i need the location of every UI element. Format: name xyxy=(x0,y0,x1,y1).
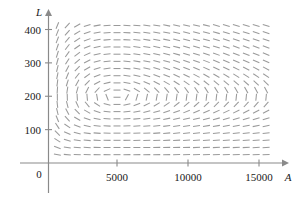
direction-field-segment xyxy=(154,88,159,93)
direction-field-segment xyxy=(193,39,200,41)
direction-field-segment xyxy=(253,60,259,63)
direction-field-segment xyxy=(85,102,89,107)
direction-field-segment xyxy=(263,39,270,41)
direction-field-segment xyxy=(84,118,91,120)
direction-field-segment xyxy=(233,32,240,34)
direction-field-segment xyxy=(143,75,150,77)
direction-field-segment xyxy=(104,104,111,106)
direction-field-segment xyxy=(253,39,260,41)
direction-field-segment xyxy=(216,94,217,101)
direction-field-segment xyxy=(163,133,170,134)
direction-field-segment xyxy=(176,94,177,101)
direction-field-segment xyxy=(193,67,199,70)
direction-field-segment xyxy=(123,54,130,55)
direction-field-segment xyxy=(243,140,250,141)
direction-field-segment xyxy=(104,75,111,76)
direction-field-segment xyxy=(133,25,140,26)
direction-field-segment xyxy=(153,53,160,54)
direction-field-segment xyxy=(87,94,88,101)
direction-field-segment xyxy=(95,88,100,93)
direction-field-segment xyxy=(64,147,71,148)
direction-field-segment xyxy=(56,116,59,122)
direction-field-segment xyxy=(153,68,160,70)
direction-field-segment xyxy=(66,65,69,71)
direction-field-segment xyxy=(94,111,101,113)
direction-field-segment xyxy=(223,110,229,113)
direction-field-segment xyxy=(253,125,260,126)
plot-canvas: 50001000015000100200300400 A L 0 xyxy=(0,0,306,202)
direction-field-segment xyxy=(193,25,200,27)
direction-field-segment xyxy=(94,133,101,134)
direction-field-segment xyxy=(233,74,239,78)
direction-field-segment xyxy=(104,61,111,62)
direction-field-segment xyxy=(193,46,200,48)
direction-field-segment xyxy=(133,54,140,55)
direction-field-segment xyxy=(263,67,269,70)
direction-field-segment xyxy=(133,47,140,48)
direction-field-segment xyxy=(244,81,249,86)
direction-field-segment xyxy=(65,58,69,64)
direction-field-segment xyxy=(264,87,267,93)
direction-field-segment xyxy=(97,94,98,101)
y-tick-label: 200 xyxy=(25,90,42,102)
direction-field-segment xyxy=(223,140,230,141)
direction-field-segment xyxy=(203,110,209,113)
direction-field-segment xyxy=(84,67,90,71)
direction-field-segment xyxy=(94,103,100,107)
direction-field-segment xyxy=(84,24,91,26)
y-tick-label: 100 xyxy=(25,124,42,136)
direction-field-segment xyxy=(84,140,91,141)
direction-field-segment xyxy=(153,61,160,63)
direction-field-segment xyxy=(263,74,269,78)
direction-field-segment xyxy=(166,94,167,101)
direction-field-segment xyxy=(164,102,170,106)
direction-field-segment xyxy=(203,74,209,77)
direction-field-segment xyxy=(56,44,58,51)
direction-field-segment xyxy=(123,75,130,76)
direction-field-segment xyxy=(253,133,260,134)
direction-field-segment xyxy=(124,104,131,105)
direction-field-segment xyxy=(223,67,229,70)
direction-field-segment xyxy=(173,32,180,33)
direction-field-segment xyxy=(254,81,259,86)
direction-field-segment xyxy=(64,154,71,155)
direction-field-segment xyxy=(163,39,170,40)
direction-field-segment xyxy=(94,60,101,62)
direction-field-segment xyxy=(263,60,269,63)
direction-field-segment xyxy=(213,110,219,113)
direction-field-segment xyxy=(54,138,60,142)
direction-field-segment xyxy=(163,74,169,77)
direction-field-segment xyxy=(84,32,91,34)
direction-field-segment xyxy=(123,61,130,62)
direction-field-segment xyxy=(184,102,189,106)
direction-field-segment xyxy=(55,131,60,136)
direction-field-segment xyxy=(203,46,210,48)
direction-field-segment xyxy=(163,25,170,26)
direction-field-segment xyxy=(104,40,111,41)
direction-field-segment xyxy=(94,46,101,47)
direction-field-segment xyxy=(94,25,101,26)
direction-field-figure: 50001000015000100200300400 A L 0 xyxy=(0,0,306,202)
x-tick-label: 15000 xyxy=(245,171,273,183)
direction-field-segment xyxy=(203,39,210,41)
direction-field-segment xyxy=(153,126,160,127)
direction-field-segment xyxy=(263,53,269,56)
direction-field-segment xyxy=(154,103,160,107)
direction-field-segment xyxy=(94,118,101,119)
direction-field-segment xyxy=(94,126,101,127)
direction-field-segment xyxy=(156,94,157,101)
direction-field-segment xyxy=(65,23,70,28)
direction-field-segment xyxy=(65,51,69,57)
direction-field-segment xyxy=(65,30,70,35)
direction-field-segment xyxy=(243,118,250,120)
direction-field-segment xyxy=(254,87,257,93)
direction-field-segment xyxy=(163,46,170,48)
direction-field-segment xyxy=(173,25,180,26)
x-axis-label: A xyxy=(284,171,292,183)
direction-field-segment xyxy=(144,103,150,106)
x-axis-arrow-icon xyxy=(282,160,289,167)
direction-field-segment xyxy=(143,25,150,26)
direction-field-segment xyxy=(253,140,260,141)
direction-field-segment xyxy=(253,110,259,113)
direction-field-segment xyxy=(193,32,200,34)
